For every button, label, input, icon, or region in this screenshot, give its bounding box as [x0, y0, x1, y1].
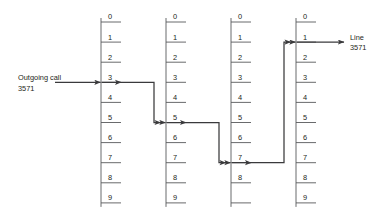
stage-2-digit-2[interactable]: 2: [173, 53, 177, 62]
stage-1-digit-2[interactable]: 2: [108, 53, 112, 62]
switching-diagram-figure: 012345678901234567890123456780123456789 …: [0, 0, 385, 215]
stage-4-digit-7[interactable]: 7: [303, 153, 307, 162]
stage-2-digit-3[interactable]: 3: [173, 73, 177, 82]
stage-4-digit-6[interactable]: 6: [303, 133, 307, 142]
stage-4-digit-5[interactable]: 5: [303, 113, 307, 122]
stage-1-digit-4[interactable]: 4: [108, 93, 112, 102]
stage-1-digit-0[interactable]: 0: [108, 12, 112, 21]
stage-1-digit-1[interactable]: 1: [108, 33, 112, 42]
stage-2-digit-4[interactable]: 4: [173, 93, 177, 102]
stage-2-digit-8[interactable]: 8: [173, 173, 177, 182]
stage-3-digit-5[interactable]: 5: [238, 113, 242, 122]
input-label-line2: 3571: [18, 84, 34, 93]
stage-3-third-selector: 012345678: [231, 12, 251, 207]
stage-2-digit-7[interactable]: 7: [173, 153, 177, 162]
stage-4-digit-1[interactable]: 1: [303, 33, 307, 42]
stage-2-digit-0[interactable]: 0: [173, 12, 177, 21]
stage-3-digit-7[interactable]: 7: [238, 153, 242, 162]
stage-4-digit-4[interactable]: 4: [303, 93, 307, 102]
stage-4-digit-2[interactable]: 2: [303, 53, 307, 62]
stage-2-digit-5[interactable]: 5: [173, 113, 177, 122]
input-label: Outgoing call3571: [18, 73, 61, 93]
output-label: Line3571: [350, 33, 366, 53]
stage-4-digit-8[interactable]: 8: [303, 173, 307, 182]
output-label-line2: 3571: [350, 43, 366, 52]
stage-1-digit-8[interactable]: 8: [108, 173, 112, 182]
input-label-line1: Outgoing call: [18, 73, 61, 82]
stage-3-digit-1[interactable]: 1: [238, 33, 242, 42]
stage-3-digit-4[interactable]: 4: [238, 93, 242, 102]
stage-1-digit-6[interactable]: 6: [108, 133, 112, 142]
stage-4-digit-9[interactable]: 9: [303, 193, 307, 202]
stage-2-digit-9[interactable]: 9: [173, 193, 177, 202]
stage-3-digit-3[interactable]: 3: [238, 73, 242, 82]
stage-1-digit-3[interactable]: 3: [108, 73, 112, 82]
stage-2-second-selector: 0123456789: [166, 12, 186, 207]
stage-1-digit-7[interactable]: 7: [108, 153, 112, 162]
diagram-canvas: 012345678901234567890123456780123456789 …: [0, 0, 385, 215]
stage-2-digit-6[interactable]: 6: [173, 133, 177, 142]
stage-3-digit-8[interactable]: 8: [238, 173, 242, 182]
stage-3-digit-2[interactable]: 2: [238, 53, 242, 62]
stage-3-digit-6[interactable]: 6: [238, 133, 242, 142]
output-label-line1: Line: [350, 33, 364, 42]
stage-4-digit-0[interactable]: 0: [303, 12, 307, 21]
stage-1-digit-5[interactable]: 5: [108, 113, 112, 122]
stage-2-digit-1[interactable]: 1: [173, 33, 177, 42]
stage-4-digit-3[interactable]: 3: [303, 73, 307, 82]
stage-3-digit-0[interactable]: 0: [238, 12, 242, 21]
stage-1-first-selector: 0123456789: [101, 12, 121, 207]
stage-1-digit-9[interactable]: 9: [108, 193, 112, 202]
